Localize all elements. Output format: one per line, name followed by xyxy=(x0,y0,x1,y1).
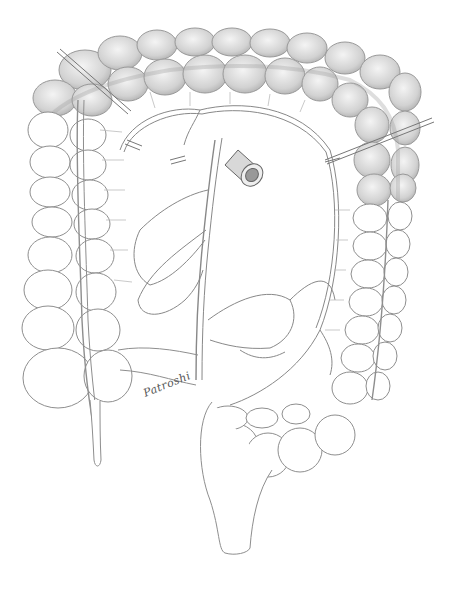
descending-colon xyxy=(332,202,412,404)
stoma-icon xyxy=(225,150,267,191)
medical-illustration: Patroshi xyxy=(0,0,456,589)
mesenteric-arcades xyxy=(120,106,339,405)
